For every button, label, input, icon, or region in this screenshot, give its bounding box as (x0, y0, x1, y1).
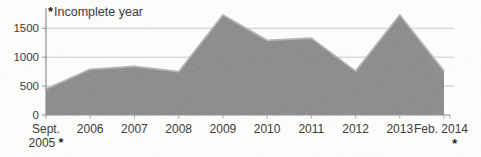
footnote-asterisk: * (48, 5, 53, 18)
x-tick-label: 2010 (254, 123, 281, 137)
y-tick-label: 1000 (12, 51, 39, 64)
y-tick-label: 1500 (12, 22, 39, 35)
x-label-feb-2014: Feb. 2014 * (414, 123, 468, 150)
footnote-asterisk: * (59, 136, 64, 150)
x-tick-label: 2013 (386, 123, 413, 137)
footnote-asterisk: * (414, 138, 468, 151)
x-label-line2: 2005 * (29, 137, 64, 151)
x-tick-label: 2006 (77, 123, 104, 137)
x-label-text: Feb. 2014 (414, 123, 468, 137)
y-tick-label: 500 (12, 80, 39, 93)
x-tick-label: 2009 (210, 123, 237, 137)
annotation-text: Incomplete year (54, 5, 143, 20)
scanned-area-chart: * Incomplete year 1500 1000 500 0 Sept. … (0, 0, 481, 157)
x-tick-label: 2011 (298, 123, 324, 137)
x-label-line1: Sept. (29, 123, 64, 137)
y-tick-label: 0 (12, 109, 39, 122)
incomplete-year-annotation: * Incomplete year (48, 5, 143, 20)
x-tick-label: 2012 (342, 123, 369, 137)
x-tick-label: 2007 (121, 123, 148, 137)
x-label-sept-2005: Sept. 2005 * (29, 123, 64, 150)
x-tick-label: 2008 (165, 123, 192, 137)
